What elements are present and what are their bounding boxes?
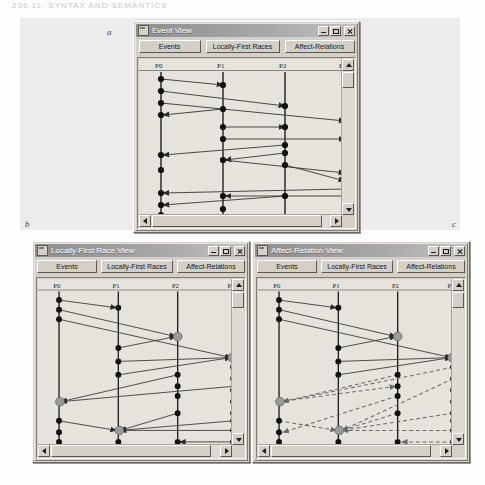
horizontal-scrollbar[interactable] — [38, 445, 232, 457]
scanned-page: 236 11. SYNTAX AND SEMANTICS a b c Event… — [0, 0, 485, 485]
window-affect-relation-view[interactable]: Affect-Relation View Events Locally-Firs… — [252, 241, 470, 463]
titlebar-event-view[interactable]: Event View — [136, 24, 357, 37]
toolbar-button-affect-relations[interactable]: Affect-Relations — [177, 260, 245, 273]
running-head: 236 11. SYNTAX AND SEMANTICS — [12, 1, 312, 12]
highlighted-race-events — [56, 332, 232, 435]
toolbar-button-events[interactable]: Events — [37, 260, 97, 273]
message-arrows — [161, 79, 342, 215]
window-locally-first-race-view[interactable]: Locally-First Race View Events Locally-F… — [32, 241, 250, 463]
affect-relation-arrows-dashed — [279, 367, 452, 445]
toolbar-button-affect-relations[interactable]: Affect-Relations — [285, 40, 355, 53]
svg-text:P0: P0 — [273, 282, 281, 289]
minimize-button[interactable] — [208, 246, 219, 256]
app-icon — [37, 245, 48, 256]
message-arrows-solid — [279, 300, 451, 375]
app-icon — [257, 245, 268, 256]
scroll-up-button[interactable] — [452, 279, 464, 291]
toolbar-affect-relation-view: Events Locally-First Races Affect-Relati… — [255, 258, 467, 275]
scrollbar-corner — [342, 215, 354, 227]
scroll-down-button[interactable] — [452, 433, 464, 445]
horizontal-scrollbar[interactable] — [258, 445, 452, 457]
scrollbar-corner — [452, 445, 464, 457]
window-title: Event View — [152, 26, 318, 35]
diagram-canvas-event-view[interactable]: P0 P1 P2 P3 — [139, 59, 342, 215]
scroll-right-button[interactable] — [440, 445, 452, 457]
vertical-scroll-thumb[interactable] — [452, 292, 464, 308]
event-dots — [158, 76, 342, 215]
figure-label-b: b — [25, 219, 30, 229]
titlebar-locally-first-race-view[interactable]: Locally-First Race View — [35, 244, 247, 257]
message-arrows — [59, 300, 232, 445]
toolbar-button-events[interactable]: Events — [257, 260, 317, 273]
vertical-scrollbar[interactable] — [452, 279, 464, 445]
scroll-down-button[interactable] — [342, 203, 354, 215]
scroll-up-button[interactable] — [342, 59, 354, 71]
scroll-right-button[interactable] — [220, 445, 232, 457]
window-title: Affect-Relation View — [271, 246, 428, 255]
close-button[interactable] — [344, 26, 355, 36]
svg-text:P1: P1 — [217, 62, 225, 70]
maximize-button[interactable] — [440, 246, 451, 256]
window-event-view[interactable]: Event View Events Locally-First Races Af… — [133, 21, 360, 233]
maximize-button[interactable] — [330, 26, 341, 36]
close-button[interactable] — [234, 246, 245, 256]
minimize-button[interactable] — [318, 26, 329, 36]
minimize-button[interactable] — [428, 246, 439, 256]
process-lines — [279, 291, 452, 445]
toolbar-event-view: Events Locally-First Races Affect-Relati… — [136, 38, 357, 55]
toolbar-button-affect-relations[interactable]: Affect-Relations — [397, 260, 465, 273]
toolbar-locally-first-race-view: Events Locally-First Races Affect-Relati… — [35, 258, 247, 275]
client-area-event-view: P0 P1 P2 P3 — [137, 57, 356, 229]
process-lines — [59, 291, 232, 445]
scroll-up-button[interactable] — [232, 279, 244, 291]
window-controls — [428, 246, 467, 256]
toolbar-button-locally-first-races[interactable]: Locally-First Races — [101, 260, 173, 273]
affect-relation-view-svg: P0 P1 P2 P3 — [258, 279, 452, 445]
svg-text:P0: P0 — [53, 282, 61, 289]
close-button[interactable] — [454, 246, 465, 256]
toolbar-button-locally-first-races[interactable]: Locally-First Races — [206, 40, 280, 53]
scrollbar-corner — [232, 445, 244, 457]
svg-text:P0: P0 — [155, 62, 163, 70]
process-lines — [161, 72, 342, 215]
diagram-canvas-affect-relation-view[interactable]: P0 P1 P2 P3 — [258, 279, 452, 445]
svg-text:P1: P1 — [113, 282, 120, 289]
scroll-down-button[interactable] — [232, 433, 244, 445]
horizontal-scroll-thumb[interactable] — [271, 445, 431, 457]
scroll-left-button[interactable] — [258, 445, 270, 457]
scroll-left-button[interactable] — [139, 215, 151, 227]
svg-text:P2: P2 — [172, 282, 179, 289]
highlighted-race-events — [276, 332, 452, 435]
toolbar-button-locally-first-races[interactable]: Locally-First Races — [321, 260, 393, 273]
svg-text:P2: P2 — [279, 62, 287, 70]
vertical-scrollbar[interactable] — [232, 279, 244, 445]
horizontal-scroll-thumb[interactable] — [51, 445, 211, 457]
window-controls — [318, 26, 357, 36]
maximize-button[interactable] — [220, 246, 231, 256]
vertical-scroll-thumb[interactable] — [342, 72, 354, 88]
locally-first-race-view-svg: P0 P1 P2 P3 — [38, 279, 232, 445]
vertical-scroll-thumb[interactable] — [232, 292, 244, 308]
event-view-svg: P0 P1 P2 P3 — [139, 59, 342, 215]
process-axis-labels: P0 P1 P2 P3 — [155, 62, 342, 70]
figure-label-a: a — [107, 27, 112, 37]
window-controls — [208, 246, 247, 256]
app-icon — [138, 25, 149, 36]
vertical-scrollbar[interactable] — [342, 59, 354, 215]
horizontal-scrollbar[interactable] — [139, 215, 342, 227]
figure-label-c: c — [452, 219, 456, 229]
scroll-right-button[interactable] — [330, 215, 342, 227]
scroll-left-button[interactable] — [38, 445, 50, 457]
horizontal-scroll-thumb[interactable] — [152, 215, 322, 227]
client-area-locally-first-race-view: P0 P1 P2 P3 — [36, 277, 246, 459]
process-axis-labels: P0 P1 P2 P3 — [53, 282, 232, 289]
toolbar-button-events[interactable]: Events — [139, 40, 201, 53]
svg-text:P2: P2 — [392, 282, 399, 289]
process-axis-labels: P0 P1 P2 P3 — [273, 282, 452, 289]
window-title: Locally-First Race View — [51, 246, 208, 255]
titlebar-affect-relation-view[interactable]: Affect-Relation View — [255, 244, 467, 257]
client-area-affect-relation-view: P0 P1 P2 P3 — [256, 277, 466, 459]
diagram-canvas-locally-first-race-view[interactable]: P0 P1 P2 P3 — [38, 279, 232, 445]
svg-text:P1: P1 — [333, 282, 340, 289]
